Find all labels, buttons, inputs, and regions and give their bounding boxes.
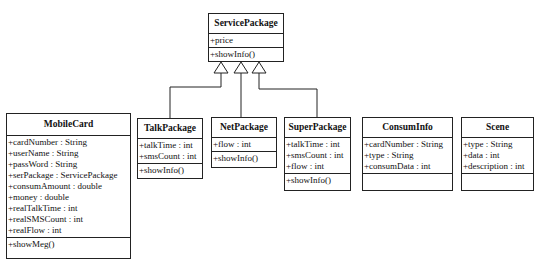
- attribute: +consumAmount : double: [8, 181, 129, 192]
- attribute: +talkTime : int: [139, 140, 201, 151]
- attribute: +talkTime : int: [286, 139, 349, 150]
- class-operations: +showInfo(): [285, 174, 350, 187]
- class-attributes: +talkTime : int +smsCount : int +flow : …: [285, 138, 350, 174]
- class-operations: +showInfo(): [138, 164, 202, 177]
- generalization-arrowhead-talk: [214, 62, 228, 73]
- attribute: +consumData : int: [364, 161, 451, 172]
- class-name: ConsumInfo: [363, 118, 452, 138]
- class-operations: +showInfo(): [209, 48, 283, 61]
- attribute: +cardNumber : String: [8, 137, 129, 148]
- generalization-line-talk: [170, 73, 221, 118]
- class-netpackage[interactable]: NetPackage +flow : int +showInfo(): [211, 117, 277, 168]
- class-operations: +showInfo(): [212, 152, 276, 165]
- attribute: +smsCount : int: [139, 151, 201, 162]
- attribute: +realSMSCount : int: [8, 214, 129, 225]
- class-attributes: +flow : int: [212, 138, 276, 152]
- generalization-line-super: [259, 73, 317, 117]
- class-attributes: +type : String +data : int +description …: [462, 138, 533, 174]
- class-consuminfo[interactable]: ConsumInfo +cardNumber : String +type : …: [362, 117, 453, 191]
- attribute: +passWord : String: [8, 159, 129, 170]
- attribute: +money : double: [8, 192, 129, 203]
- class-attributes: +cardNumber : String +userName : String …: [7, 136, 130, 238]
- class-talkpackage[interactable]: TalkPackage +talkTime : int +smsCount : …: [137, 118, 203, 179]
- operation: +showInfo(): [210, 49, 282, 60]
- class-name: Scene: [462, 118, 533, 138]
- attribute: +serPackage : ServicePackage: [8, 170, 129, 181]
- class-superpackage[interactable]: SuperPackage +talkTime : int +smsCount :…: [284, 117, 351, 191]
- attribute: +userName : String: [8, 148, 129, 159]
- attribute: +flow : int: [286, 161, 349, 172]
- attribute: +description : int: [463, 161, 532, 172]
- attribute: +realFlow : int: [8, 225, 129, 236]
- class-scene[interactable]: Scene +type : String +data : int +descri…: [461, 117, 534, 191]
- attribute: +cardNumber : String: [364, 139, 451, 150]
- attribute: +type : String: [364, 150, 451, 161]
- attribute: +data : int: [463, 150, 532, 161]
- operation: +showMeg(): [8, 239, 129, 250]
- operation: +showInfo(): [286, 175, 349, 186]
- class-name: SuperPackage: [285, 118, 350, 138]
- generalization-arrowhead-super: [252, 62, 266, 73]
- class-attributes: +talkTime : int +smsCount : int: [138, 139, 202, 164]
- attribute: +type : String: [463, 139, 532, 150]
- class-attributes: +cardNumber : String +type : String +con…: [363, 138, 452, 174]
- generalization-arrowhead-net: [234, 62, 248, 73]
- class-mobilecard[interactable]: MobileCard +cardNumber : String +userNam…: [6, 113, 131, 259]
- operation: +showInfo(): [139, 165, 201, 176]
- class-name: MobileCard: [7, 114, 130, 136]
- attribute: +flow : int: [213, 139, 275, 150]
- class-servicepackage[interactable]: ServicePackage +price +showInfo(): [208, 13, 284, 62]
- class-operations: [462, 174, 533, 176]
- class-name: NetPackage: [212, 118, 276, 138]
- class-name: ServicePackage: [209, 14, 283, 34]
- class-operations: +showMeg(): [7, 238, 130, 251]
- attribute: +smsCount : int: [286, 150, 349, 161]
- class-attributes: +price: [209, 34, 283, 48]
- class-name: TalkPackage: [138, 119, 202, 139]
- operation: +showInfo(): [213, 153, 275, 164]
- attribute: +realTalkTime : int: [8, 203, 129, 214]
- class-operations: [363, 174, 452, 176]
- attribute: +price: [210, 35, 282, 46]
